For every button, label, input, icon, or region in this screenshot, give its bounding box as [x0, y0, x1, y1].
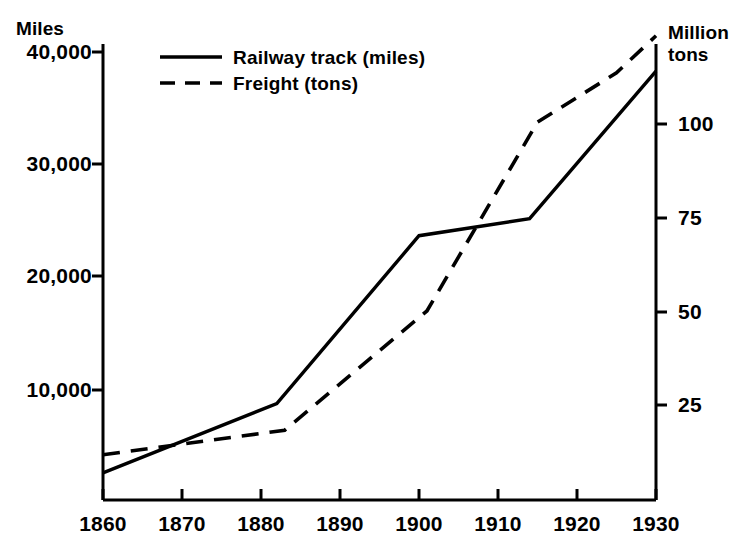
y-axis-right-ticks [656, 124, 667, 405]
chart-plot-svg [0, 0, 739, 555]
chart-container: Miles Milliontons 40,000 30,000 20,000 1… [0, 0, 739, 555]
series-line-freight [103, 36, 656, 455]
x-axis-ticks [103, 489, 656, 500]
y-axis-left-ticks [92, 52, 103, 390]
series-line-railway-track [103, 71, 656, 473]
